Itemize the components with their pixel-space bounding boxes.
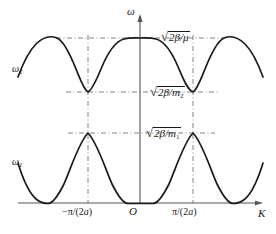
radicand-mu-denominator: μ [183, 31, 189, 43]
acoustic-branch-label: ω1 [12, 157, 23, 169]
acoustic-branch-subscript: 1 [19, 161, 23, 169]
radical-m1: 2β/m1 [146, 127, 181, 141]
dispersion-plot-canvas [0, 0, 276, 234]
x-tick-label-minus-pi-over-2a: −π/(2a) [62, 207, 92, 217]
radicand-m2: 2β/m2 [157, 86, 185, 100]
radicand-m1-subscript: 1 [176, 133, 180, 141]
y-axis-label: ω [127, 6, 135, 17]
radical-m2: 2β/m2 [150, 86, 185, 100]
x-axis-label: K [258, 208, 265, 219]
optical-branch-label: ω2 [12, 64, 23, 76]
radicand-mu: 2β/μ [168, 31, 190, 43]
x-tick-slash-two-right: /(2 [177, 206, 188, 217]
radicand-m2-numerator: 2β/ [158, 86, 172, 98]
level-label-sqrt-2beta-over-m1: 2β/m1 [146, 127, 181, 141]
radicand-m1: 2β/m1 [153, 127, 181, 141]
optical-branch-subscript: 2 [19, 68, 23, 76]
level-label-sqrt-2beta-over-mu: 2β/μ [161, 31, 190, 43]
radicand-m2-denominator: m [172, 86, 180, 98]
radical-mu: 2β/μ [161, 31, 190, 43]
origin-label: O [129, 206, 137, 217]
optical-branch-omega: ω [12, 63, 19, 74]
y-axis-arrowhead [137, 14, 142, 22]
x-axis-arrowhead [255, 200, 262, 205]
radicand-mu-numerator: 2β/ [169, 31, 183, 43]
x-tick-slash-two: /(2 [73, 206, 84, 217]
radicand-m2-subscript: 2 [180, 92, 184, 100]
radicand-m1-numerator: 2β/ [154, 127, 168, 139]
x-tick-close-paren: ) [89, 206, 92, 217]
x-tick-close-paren-right: ) [193, 206, 196, 217]
x-tick-label-plus-pi-over-2a: π/(2a) [172, 207, 197, 217]
phonon-dispersion-figure: ω K O −π/(2a) π/(2a) ω2 ω1 2β/μ 2β/m2 2β… [0, 0, 276, 234]
radicand-m1-denominator: m [168, 127, 176, 139]
level-label-sqrt-2beta-over-m2: 2β/m2 [150, 86, 185, 100]
acoustic-branch-omega: ω [12, 156, 19, 167]
